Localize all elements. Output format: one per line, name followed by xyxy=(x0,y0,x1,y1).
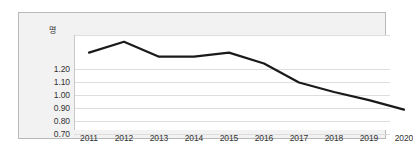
y-axis-unit-label: 명 xyxy=(49,26,56,35)
x-tick-label-2013: 2013 xyxy=(150,133,169,143)
x-tick-label-2017: 2017 xyxy=(290,133,309,143)
y-tick-label-1-00: 1.00 xyxy=(37,91,70,100)
x-tick-label-2020: 2020 xyxy=(395,133,413,143)
y-tick-label-0-80: 0.80 xyxy=(37,117,70,126)
data-series-line xyxy=(74,35,390,130)
x-tick-label-2012: 2012 xyxy=(115,133,134,143)
y-axis-tick-labels: 1.20 1.10 1.00 0.90 0.80 0.70 xyxy=(37,35,70,130)
x-tick-label-2015: 2015 xyxy=(220,133,239,143)
x-tick-label-2011: 2011 xyxy=(80,133,98,143)
x-tick-label-2019: 2019 xyxy=(360,133,379,143)
plot-area xyxy=(74,35,390,130)
x-tick-label-2016: 2016 xyxy=(255,133,274,143)
chart-panel: 명 1.20 1.10 1.00 0.90 0.80 0.70 xyxy=(18,12,386,139)
y-tick-label-0-90: 0.90 xyxy=(37,104,70,113)
y-tick-label-0-70: 0.70 xyxy=(37,130,70,139)
y-tick-label-1-20: 1.20 xyxy=(37,65,70,74)
x-tick-label-2014: 2014 xyxy=(185,133,204,143)
x-tick-label-2018: 2018 xyxy=(325,133,344,143)
y-tick-label-1-10: 1.10 xyxy=(37,78,70,87)
x-axis-tick-labels: 2011 2012 2013 2014 2015 2016 2017 2018 … xyxy=(74,133,390,147)
